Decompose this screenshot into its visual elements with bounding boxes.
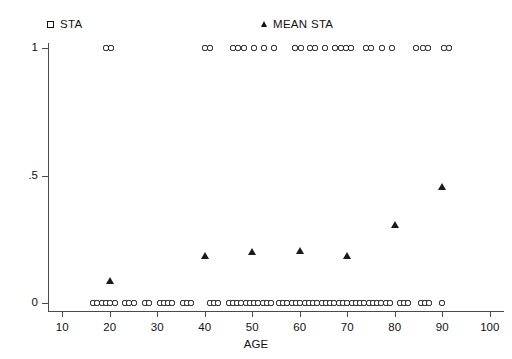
legend-label-sta: STA [60,18,82,30]
data-point-triangle [343,252,351,259]
x-tick-label: 100 [470,321,510,333]
x-tick-label: 50 [232,321,272,333]
legend-item-sta: STA [47,18,82,30]
x-tick [110,311,111,317]
x-tick-label: 20 [90,321,130,333]
data-point-square [312,45,318,51]
x-axis-title: AGE [226,338,286,350]
data-point-square [207,45,213,51]
y-tick-label: 1 [8,41,38,53]
x-tick-label: 40 [185,321,225,333]
y-tick [42,48,49,49]
scatter-plot: STA MEAN STA 1020304050607080901000.51 A… [0,0,512,359]
data-point-square [241,45,247,51]
data-point-square [426,300,432,306]
x-tick-label: 60 [280,321,320,333]
data-point-triangle [201,252,209,259]
data-point-square [389,45,395,51]
data-point-square [439,300,445,306]
data-point-square [112,300,118,306]
data-point-square [368,45,374,51]
y-tick-label: 0 [8,296,38,308]
data-point-triangle [106,277,114,284]
legend-label-mean-sta: MEAN STA [273,18,333,30]
x-tick-label: 80 [375,321,415,333]
y-tick [42,303,49,304]
data-point-square [387,300,393,306]
x-tick [157,311,158,317]
data-point-square [261,45,267,51]
data-point-square [348,45,354,51]
x-tick-label: 90 [422,321,462,333]
data-point-square [188,300,194,306]
x-tick-label: 30 [137,321,177,333]
data-point-square [446,45,452,51]
x-tick [395,311,396,317]
data-point-square [271,45,277,51]
data-point-square [268,300,274,306]
square-marker-icon [47,21,54,28]
x-tick [347,311,348,317]
x-tick [62,311,63,317]
data-point-triangle [248,248,256,255]
triangle-marker-icon [261,21,267,27]
data-point-square [298,45,304,51]
y-axis-line [48,43,49,312]
x-tick [490,311,491,317]
data-point-square [425,45,431,51]
data-point-square [413,45,419,51]
x-axis-line [48,311,504,312]
data-point-square [251,45,257,51]
x-tick [205,311,206,317]
data-point-square [405,300,411,306]
y-tick [42,176,49,177]
data-point-square [215,300,221,306]
data-point-square [169,300,175,306]
data-point-square [322,45,328,51]
x-tick [300,311,301,317]
y-tick-label: .5 [8,169,38,181]
data-point-triangle [438,183,446,190]
x-tick-label: 70 [327,321,367,333]
data-point-square [108,45,114,51]
x-tick-label: 10 [42,321,82,333]
data-point-triangle [391,221,399,228]
data-point-triangle [296,247,304,254]
data-point-square [131,300,137,306]
x-tick [442,311,443,317]
legend-item-mean-sta: MEAN STA [261,18,333,30]
x-tick [252,311,253,317]
data-point-square [146,300,152,306]
data-point-square [379,45,385,51]
